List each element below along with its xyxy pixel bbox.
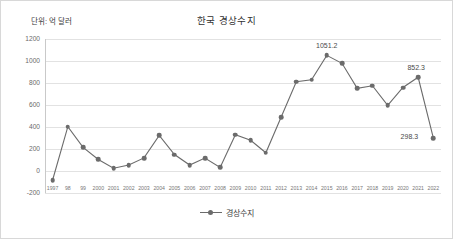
data-point-label: 298.3 bbox=[401, 133, 419, 140]
data-point-marker bbox=[355, 86, 360, 91]
data-point-marker bbox=[66, 124, 71, 129]
grid-line bbox=[45, 127, 441, 128]
y-axis-tick-label: 0 bbox=[6, 167, 40, 174]
x-axis-tick-label: 2022 bbox=[422, 185, 444, 191]
data-point-marker bbox=[370, 83, 375, 88]
data-point-label: 1051.2 bbox=[316, 42, 337, 49]
chart-card: 단위: 억 달러 한국 경상수지 120010008006004002000-2… bbox=[0, 0, 453, 239]
y-axis-tick-label: 600 bbox=[6, 101, 40, 108]
legend-marker-icon bbox=[200, 209, 222, 216]
data-point-marker bbox=[81, 145, 86, 150]
y-axis-tick-label: 1200 bbox=[6, 35, 40, 42]
data-point-marker bbox=[340, 61, 345, 66]
data-point-marker bbox=[431, 136, 436, 141]
grid-line bbox=[45, 149, 441, 150]
plot-area: 120010008006004002000-200 19979899200020… bbox=[1, 1, 453, 239]
grid-line bbox=[45, 83, 441, 84]
data-point-marker bbox=[187, 163, 192, 168]
legend-label: 경상수지 bbox=[226, 207, 254, 218]
data-point-marker bbox=[50, 178, 55, 183]
grid-line bbox=[45, 105, 441, 106]
y-axis-tick-label: -200 bbox=[6, 189, 40, 196]
data-point-marker bbox=[111, 166, 116, 171]
data-point-marker bbox=[142, 156, 147, 161]
data-point-marker bbox=[96, 157, 101, 162]
grid-line bbox=[45, 61, 441, 62]
data-point-marker bbox=[264, 150, 269, 155]
data-point-marker bbox=[126, 163, 131, 168]
data-point-marker bbox=[218, 165, 223, 170]
legend: 경상수지 bbox=[1, 207, 452, 218]
data-point-marker bbox=[416, 75, 421, 80]
data-point-label: 852.3 bbox=[407, 64, 425, 71]
y-axis-line bbox=[45, 39, 46, 193]
data-point-marker bbox=[233, 132, 238, 137]
y-axis-tick-label: 1000 bbox=[6, 57, 40, 64]
series-line-path bbox=[1, 1, 453, 239]
data-point-marker bbox=[294, 79, 299, 84]
data-point-marker bbox=[401, 85, 406, 90]
y-axis-tick-label: 800 bbox=[6, 79, 40, 86]
data-point-marker bbox=[172, 152, 177, 157]
y-axis-tick-label: 400 bbox=[6, 123, 40, 130]
grid-line bbox=[45, 171, 441, 172]
data-point-marker bbox=[279, 115, 284, 120]
data-point-marker bbox=[309, 77, 314, 82]
data-point-marker bbox=[157, 133, 162, 138]
data-point-marker bbox=[324, 53, 329, 58]
data-point-marker bbox=[248, 138, 253, 143]
data-point-marker bbox=[385, 103, 390, 108]
grid-line bbox=[45, 193, 441, 194]
grid-line bbox=[45, 39, 441, 40]
data-point-marker bbox=[203, 156, 208, 161]
y-axis-tick-label: 200 bbox=[6, 145, 40, 152]
